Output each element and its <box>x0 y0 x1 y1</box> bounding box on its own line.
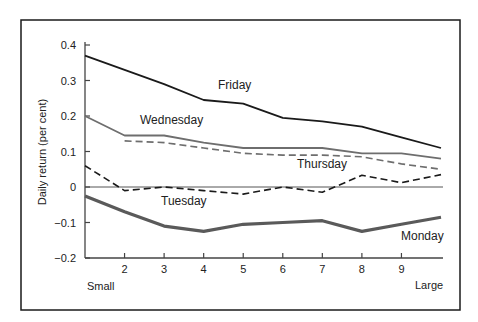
chart-figure: 0.40.30.20.10−0.1−0.223456789 FridayWedn… <box>0 0 478 322</box>
y-tick-label: −0.2 <box>54 252 76 264</box>
x-tick-label: 5 <box>240 263 246 275</box>
y-tick-label: 0.1 <box>61 146 76 158</box>
x-tick-label: 4 <box>201 263 207 275</box>
x-label-large: Large <box>415 279 443 291</box>
x-tick-label: 6 <box>280 263 286 275</box>
y-axis-title: Daily return (per cent) <box>36 99 48 205</box>
x-label-small: Small <box>87 280 115 292</box>
y-tick-label: 0.3 <box>61 75 76 87</box>
y-tick-label: 0.2 <box>61 110 76 122</box>
x-tick-label: 9 <box>398 263 404 275</box>
y-tick-label: 0.4 <box>61 39 76 51</box>
label-wednesday: Wednesday <box>140 113 203 127</box>
x-tick-label: 2 <box>121 263 127 275</box>
x-tick-label: 8 <box>359 263 365 275</box>
x-tick-label: 7 <box>319 263 325 275</box>
y-tick-label: −0.1 <box>54 217 76 229</box>
label-thursday: Thursday <box>297 157 347 171</box>
label-monday: Monday <box>401 229 444 243</box>
y-tick-label: 0 <box>70 181 76 193</box>
label-friday: Friday <box>218 78 251 92</box>
label-tuesday: Tuesday <box>161 194 207 208</box>
x-tick-label: 3 <box>161 263 167 275</box>
